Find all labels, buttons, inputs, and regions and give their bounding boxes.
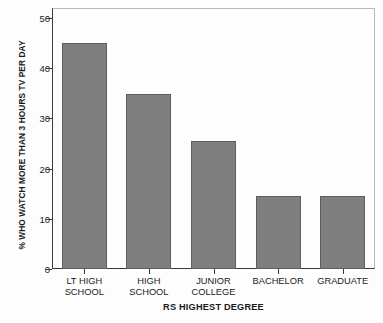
y-axis-tick-mark [46, 118, 52, 119]
x-axis-category-label: GRADUATE [310, 276, 375, 287]
x-axis-category-label: JUNIORCOLLEGE [181, 276, 246, 298]
y-axis-tick-mark [46, 68, 52, 69]
x-axis-category-label: HIGHSCHOOL [117, 276, 182, 298]
x-axis-category-label: LT HIGHSCHOOL [52, 276, 117, 298]
bar [256, 196, 301, 269]
bar [320, 196, 365, 269]
x-axis-category-label-line: COLLEGE [181, 287, 246, 298]
y-axis-tick-mark [46, 219, 52, 220]
x-axis-tick-mark [343, 269, 344, 274]
x-axis-category-label-line: SCHOOL [52, 287, 117, 298]
bar [191, 141, 236, 269]
y-axis-tick-mark [46, 18, 52, 19]
x-axis-category-label-line: BACHELOR [246, 276, 311, 287]
x-axis-tick-mark [149, 269, 150, 274]
x-axis-category-label-line: GRADUATE [310, 276, 375, 287]
x-axis-category-label-line: SCHOOL [117, 287, 182, 298]
x-axis-tick-mark [84, 269, 85, 274]
x-axis-tick-mark [278, 269, 279, 274]
x-axis-category-label-line: HIGH [117, 276, 182, 287]
bar-chart: % WHO WATCH MORE THAN 3 HOURS TV PER DAY… [0, 0, 383, 323]
y-axis-title: % WHO WATCH MORE THAN 3 HOURS TV PER DAY [17, 15, 27, 275]
x-axis-title: RS HIGHEST DEGREE [52, 302, 375, 312]
bar [62, 43, 107, 269]
x-axis-category-label: BACHELOR [246, 276, 311, 287]
x-axis-category-label-line: LT HIGH [52, 276, 117, 287]
x-axis-tick-mark [214, 269, 215, 274]
y-axis-tick-mark [46, 269, 52, 270]
x-axis-category-label-line: JUNIOR [181, 276, 246, 287]
bar [126, 94, 171, 269]
y-axis-tick-mark [46, 169, 52, 170]
